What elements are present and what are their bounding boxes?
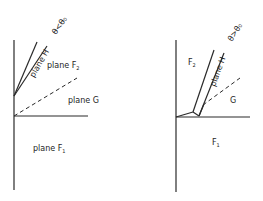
right-plane-h-base (193, 112, 199, 116)
right-plane-g-label: G (230, 96, 236, 105)
left-plane-f1-label: plane F1 (33, 144, 66, 154)
right-junction-segment (176, 112, 193, 117)
diagram-canvas: plane H θ<θ₀ plane F2 plane G plane F1 F… (0, 0, 263, 201)
figure-left: plane H θ<θ₀ plane F2 plane G plane F1 (14, 15, 99, 190)
left-plane-g-label: plane G (68, 96, 99, 105)
right-plane-f1-label: F1 (212, 138, 220, 148)
figure-right: F2 plane H θ>θ₀ G F1 (176, 22, 250, 192)
left-plane-f2-label: plane F2 (47, 61, 80, 71)
right-plane-f2-label: F2 (188, 58, 196, 68)
right-plane-h-label: plane H (208, 56, 227, 88)
right-junction-connector (199, 104, 204, 116)
right-condition-label: θ>θ₀ (226, 22, 244, 43)
left-condition-label: θ<θ₀ (50, 15, 69, 36)
